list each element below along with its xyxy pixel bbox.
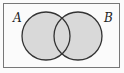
set-b-label: B: [104, 12, 113, 24]
set-a-label: A: [13, 12, 22, 24]
venn-diagram: A B: [0, 0, 124, 73]
